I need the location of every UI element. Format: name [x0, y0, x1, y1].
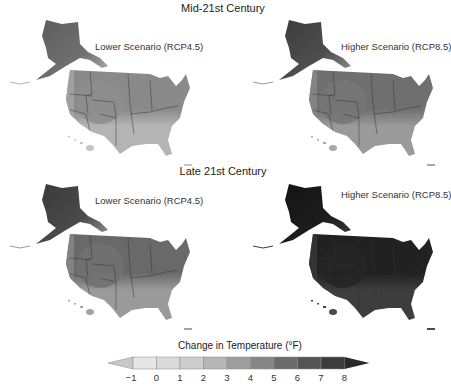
temperature-color-scale	[100, 354, 380, 372]
map-panel-late-rcp45: Lower Scenario (RCP4.5)	[0, 178, 223, 338]
us-temperature-map	[0, 14, 223, 174]
row-title-mid-century: Mid-21st Century	[0, 2, 446, 14]
legend-tick: 1	[170, 372, 190, 383]
legend-tick: 8	[335, 372, 355, 383]
us-temperature-map	[223, 14, 446, 174]
legend-tick: 4	[241, 372, 261, 383]
legend-tick: 5	[264, 372, 284, 383]
legend-tick: 2	[194, 372, 214, 383]
legend-tick: 7	[311, 372, 331, 383]
scenario-label: Higher Scenario (RCP8.5)	[341, 41, 451, 52]
scenario-label: Lower Scenario (RCP4.5)	[95, 41, 203, 52]
us-temperature-map	[223, 178, 446, 338]
map-panel-late-rcp85: Higher Scenario (RCP8.5)	[223, 178, 446, 338]
legend-tick: 6	[288, 372, 308, 383]
legend-tick: 3	[217, 372, 237, 383]
map-panel-mid-rcp45: Lower Scenario (RCP4.5)	[0, 14, 223, 174]
scenario-label: Higher Scenario (RCP8.5)	[341, 189, 451, 200]
legend-tick: −1	[121, 372, 141, 383]
map-panel-mid-rcp85: Higher Scenario (RCP8.5)	[223, 14, 446, 174]
legend-title: Change in Temperature (°F)	[100, 340, 380, 351]
legend-tick: 0	[147, 372, 167, 383]
scenario-label: Lower Scenario (RCP4.5)	[95, 195, 203, 206]
